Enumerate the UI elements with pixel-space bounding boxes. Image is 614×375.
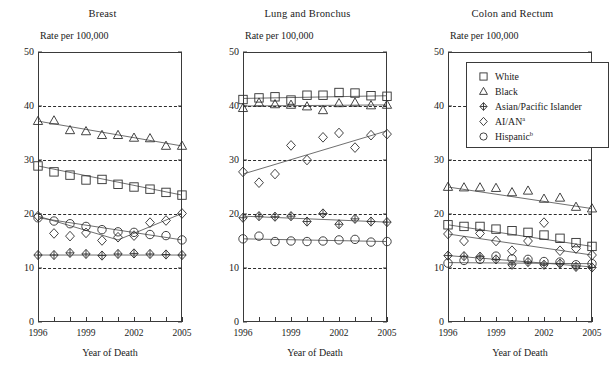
legend-label: Hispanicb <box>495 130 533 142</box>
legend-label: Asian/Pacific Islander <box>495 101 582 112</box>
legend-footnote-marker: b <box>530 130 533 137</box>
x-tick-label: 2002 <box>535 328 554 338</box>
y-tick-label: 30 <box>24 155 34 165</box>
x-tick-label: 2005 <box>173 328 192 338</box>
y-tick-label: 20 <box>24 209 34 219</box>
legend-item[interactable]: Hispanicb <box>467 129 608 144</box>
data-series-layer <box>243 52 387 322</box>
y-tick-label: 20 <box>434 209 444 219</box>
figure-canvas: BreastRate per 100,000010203040501996199… <box>0 0 614 375</box>
legend-label: AI/ANa <box>495 115 525 127</box>
legend-label-text: Hispanic <box>495 132 530 143</box>
x-tick-label: 2005 <box>583 328 602 338</box>
plot-area: 010203040501996199920022005Year of Death <box>38 52 182 322</box>
triangle-marker-icon <box>475 86 491 98</box>
x-tick-label: 1996 <box>234 328 253 338</box>
y-tick-label: 20 <box>229 209 239 219</box>
x-tick-label: 1999 <box>77 328 96 338</box>
legend-label: White <box>495 71 519 82</box>
y-tick-label: 0 <box>29 317 34 327</box>
legend-item[interactable]: Black <box>467 84 608 99</box>
legend-label-text: White <box>495 71 519 82</box>
y-axis-label: Rate per 100,000 <box>245 30 314 41</box>
square-marker-icon <box>475 71 491 83</box>
y-axis-label: Rate per 100,000 <box>40 30 109 41</box>
x-tick-label: 2005 <box>378 328 397 338</box>
plot-area: 010203040501996199920022005Year of Death <box>243 52 387 322</box>
panel-title: Colon and Rectum <box>410 8 614 19</box>
x-tick-mark <box>387 317 388 322</box>
x-axis-title: Year of Death <box>38 347 182 358</box>
legend-footnote-marker: a <box>522 115 525 122</box>
panel-title: Lung and Bronchus <box>205 8 410 19</box>
y-tick-label: 50 <box>24 47 34 57</box>
legend-item[interactable]: Asian/Pacific Islander <box>467 99 608 114</box>
x-tick-label: 2002 <box>125 328 144 338</box>
diamond-marker-icon <box>475 116 491 128</box>
y-tick-label: 0 <box>234 317 239 327</box>
y-tick-label: 40 <box>24 101 34 111</box>
panel-title: Breast <box>0 8 205 19</box>
circle-marker-icon <box>475 131 491 143</box>
y-tick-label: 10 <box>24 263 34 273</box>
cross-diamond-marker-icon <box>475 101 491 113</box>
y-tick-label: 50 <box>229 47 239 57</box>
data-series-layer <box>38 52 182 322</box>
legend-label-text: Black <box>495 86 518 97</box>
legend-item[interactable]: White <box>467 69 608 84</box>
y-tick-label: 10 <box>229 263 239 273</box>
x-tick-mark <box>182 317 183 322</box>
y-tick-label: 30 <box>434 155 444 165</box>
x-axis-title: Year of Death <box>243 347 387 358</box>
x-tick-label: 1999 <box>282 328 301 338</box>
chart-legend: WhiteBlackAsian/Pacific IslanderAI/ANaHi… <box>466 62 609 148</box>
y-axis-label: Rate per 100,000 <box>450 30 519 41</box>
legend-label-text: Asian/Pacific Islander <box>495 101 582 112</box>
x-tick-mark <box>592 317 593 322</box>
x-tick-label: 1996 <box>439 328 458 338</box>
legend-label-text: AI/AN <box>495 117 522 128</box>
y-tick-label: 40 <box>229 101 239 111</box>
x-axis-title: Year of Death <box>448 347 592 358</box>
x-tick-label: 2002 <box>330 328 349 338</box>
y-tick-label: 0 <box>439 317 444 327</box>
x-tick-label: 1996 <box>29 328 48 338</box>
y-tick-label: 40 <box>434 101 444 111</box>
y-tick-label: 10 <box>434 263 444 273</box>
figure-caption-sliver <box>0 366 614 375</box>
y-tick-label: 50 <box>434 47 444 57</box>
chart-panel-2: Lung and BronchusRate per 100,0000102030… <box>205 0 410 375</box>
chart-panel-3: Colon and RectumRate per 100,00001020304… <box>410 0 614 375</box>
legend-item[interactable]: AI/ANa <box>467 114 608 129</box>
chart-panel-1: BreastRate per 100,000010203040501996199… <box>0 0 205 375</box>
legend-label: Black <box>495 86 518 97</box>
y-tick-label: 30 <box>229 155 239 165</box>
x-tick-label: 1999 <box>487 328 506 338</box>
